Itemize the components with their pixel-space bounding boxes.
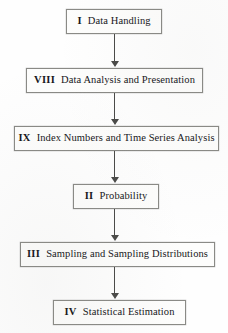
arrow-stem <box>114 34 115 62</box>
flowchart-node-2-label: VIIIData Analysis and Presentation <box>34 75 195 86</box>
arrow-stem <box>114 93 115 120</box>
down-arrow-icon <box>108 209 121 242</box>
arrow-head <box>111 119 119 125</box>
flowchart-node-3-label: IXIndex Numbers and Time Series Analysis <box>18 133 214 144</box>
flowchart-node-1-number: I <box>77 15 81 26</box>
flowchart-node-6-number: IV <box>64 306 76 317</box>
flowchart-node-5-number: III <box>27 248 40 259</box>
arrow-stem <box>114 151 115 178</box>
flowchart-node-3-text: Index Numbers and Time Series Analysis <box>37 132 215 143</box>
flowchart-node-3: IXIndex Numbers and Time Series Analysis <box>14 126 219 151</box>
flowchart-node-6-text: Statistical Estimation <box>83 306 175 317</box>
down-arrow-icon <box>108 267 121 300</box>
flowchart-node-4-text: Probability <box>100 190 148 201</box>
flowchart-node-2-text: Data Analysis and Presentation <box>61 74 195 85</box>
flowchart-node-4: IIProbability <box>73 184 159 209</box>
flowchart-node-5-text: Sampling and Sampling Distributions <box>46 248 208 259</box>
arrow-stem <box>114 209 115 236</box>
down-arrow-icon <box>108 151 121 184</box>
arrow-head <box>111 61 119 67</box>
flowchart-node-1: IData Handling <box>66 9 162 34</box>
arrow-head <box>111 235 119 241</box>
down-arrow-icon <box>108 93 121 126</box>
down-arrow-icon <box>108 34 121 68</box>
flowchart-node-4-number: II <box>85 190 94 201</box>
arrow-head <box>111 177 119 183</box>
flowchart-node-1-label: IData Handling <box>77 16 150 27</box>
arrow-head <box>111 293 119 299</box>
flowchart-node-5-label: IIISampling and Sampling Distributions <box>27 249 208 260</box>
flowchart-node-6: IVStatistical Estimation <box>53 300 186 325</box>
flowchart-node-6-label: IVStatistical Estimation <box>64 307 174 318</box>
flowchart-node-3-number: IX <box>18 132 30 143</box>
flowchart-node-4-label: IIProbability <box>85 191 148 202</box>
flowchart-canvas: IData Handling VIIIData Analysis and Pre… <box>0 0 228 333</box>
flowchart-node-2: VIIIData Analysis and Presentation <box>26 68 203 93</box>
arrow-stem <box>114 267 115 294</box>
flowchart-node-2-number: VIII <box>34 74 55 85</box>
flowchart-node-1-text: Data Handling <box>88 15 151 26</box>
flowchart-node-5: IIISampling and Sampling Distributions <box>20 242 215 267</box>
